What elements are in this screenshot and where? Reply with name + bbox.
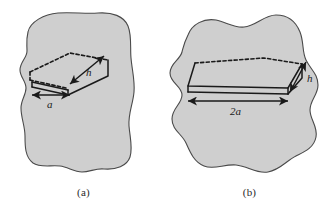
figure-root: h a (a) — [0, 0, 333, 201]
irregular-surface-blob — [20, 13, 134, 172]
base-label: 2a — [230, 105, 242, 117]
figure-panel-b: h 2a (b) — [166, 0, 333, 201]
height-label: h — [86, 66, 92, 78]
panel-a-caption: (a) — [0, 186, 167, 198]
figure-panel-a: h a (a) — [0, 0, 167, 201]
base-label: a — [47, 98, 53, 110]
panel-b-drawing: h 2a — [166, 0, 333, 201]
height-label: h — [307, 72, 313, 84]
panel-a-drawing: h a — [0, 0, 167, 201]
panel-b-caption: (b) — [166, 186, 333, 198]
